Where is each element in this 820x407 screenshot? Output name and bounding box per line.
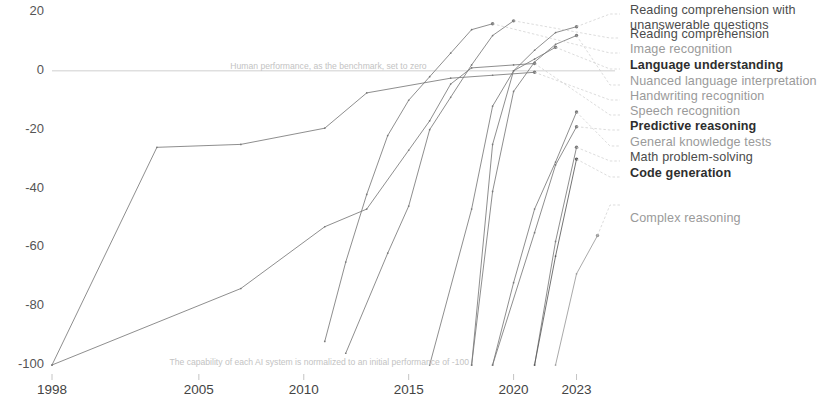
y-axis-tick-label: -100 <box>0 356 44 371</box>
series-line <box>555 234 600 366</box>
x-axis-tick-label: 2020 <box>484 382 544 397</box>
legend-item[interactable]: Reading comprehension <box>630 27 769 42</box>
y-axis-tick-label: -20 <box>0 121 44 136</box>
series-line <box>492 125 578 366</box>
y-axis-tick-label: -40 <box>0 180 44 195</box>
legend-item[interactable]: Image recognition <box>630 42 732 57</box>
y-axis-tick-label: 20 <box>0 3 44 18</box>
x-axis-tick-label: 2015 <box>379 382 439 397</box>
y-axis-tick-label: 0 <box>0 62 44 77</box>
legend-item[interactable]: Nuanced language interpretation <box>630 74 817 89</box>
x-axis-tick-label: 1998 <box>22 382 82 397</box>
series-line <box>51 71 536 366</box>
human-baseline-annotation: Human performance, as the benchmark, set… <box>230 61 426 71</box>
series-line <box>471 34 578 366</box>
legend-item[interactable]: Language understanding <box>630 58 783 73</box>
legend-item[interactable]: Speech recognition <box>630 104 740 119</box>
legend-item[interactable]: Predictive reasoning <box>630 119 756 134</box>
series-line <box>51 62 536 366</box>
x-axis-tick-label: 2010 <box>274 382 334 397</box>
legend-item[interactable]: General knowledge tests <box>630 135 772 150</box>
legend-item[interactable]: Math problem-solving <box>630 150 753 165</box>
x-axis-tick-label: 2023 <box>547 382 607 397</box>
chart-container: 200-20-40-60-80-100 19982005201020152020… <box>0 0 820 407</box>
y-axis-tick-label: -60 <box>0 238 44 253</box>
normalization-annotation: The capability of each AI system is norm… <box>169 357 469 367</box>
x-axis-tick-label: 2005 <box>169 382 229 397</box>
legend-item[interactable]: Handwriting recognition <box>630 89 765 104</box>
y-axis-tick-label: -80 <box>0 297 44 312</box>
legend-item[interactable]: Complex reasoning <box>630 211 741 226</box>
legend-item[interactable]: Code generation <box>630 166 731 181</box>
x-axis-ticks <box>52 374 577 380</box>
series-line <box>429 46 557 366</box>
series-line <box>534 157 579 365</box>
